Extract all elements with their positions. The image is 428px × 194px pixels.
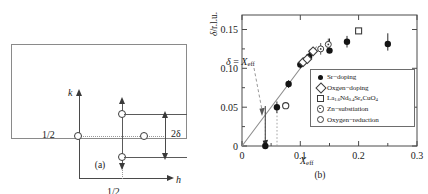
splitting-arrow-down-icon [162, 153, 168, 160]
filled-circle-marker-icon [314, 75, 327, 80]
legend-label-lnsco: La1.6Nd0.4SrxCuO4 [327, 94, 378, 102]
peak-circle-right [140, 132, 148, 140]
guide-line-horizontal [80, 136, 166, 137]
xtick-0: 0 [240, 150, 245, 161]
splitting-measure-line [165, 116, 166, 154]
panel-a-frame: k h 1/2 1/2 2δ [11, 44, 187, 139]
xtick-03: 0.3 [411, 150, 424, 161]
dotted-circle-marker-icon [314, 105, 327, 113]
panel-b-caption: (b) [230, 170, 410, 180]
panel-b: δ/r.l.u. [212, 0, 428, 194]
k-tick-label-half: 1/2 [42, 129, 55, 140]
h-axis-arrow-icon [167, 175, 174, 181]
panel-a: k h 1/2 1/2 2δ (a) [0, 0, 212, 194]
panel-a-caption: (a) [0, 160, 200, 170]
k-axis-arrow-icon [76, 89, 82, 96]
series-land-sr-cuo4 [356, 28, 362, 34]
ytick-015: 0.15 [221, 24, 239, 35]
center-arrow-up-icon [119, 97, 125, 104]
legend-item-oxygen-reduction: Oxygen−reduction [314, 114, 411, 125]
h-axis-label: h [176, 174, 181, 185]
legend-item-sr-doping: Sr−doping [314, 72, 411, 83]
open-diamond-marker-icon [314, 84, 327, 92]
h-tick-label-half: 1/2 [107, 186, 120, 194]
legend-item-zn-substitution: Zn−substiation [314, 104, 411, 115]
peak-circle-left [74, 132, 82, 140]
legend-label-oxygen-doping: Oxgen−doping [327, 84, 368, 92]
tie-line-top [124, 114, 187, 115]
ytick-0: 0 [233, 141, 238, 152]
figure-root: k h 1/2 1/2 2δ (a) δ/r.l.u. [0, 0, 428, 194]
splitting-arrow-up-icon [162, 111, 168, 118]
legend-label-sr-doping: Sr−doping [327, 73, 356, 81]
ytick-005: 0.05 [221, 102, 239, 113]
legend-label-oxygen-reduction: Oxygen−reduction [327, 116, 379, 124]
open-square-marker-icon [314, 95, 327, 102]
legend-item-lnsco: La1.6Nd0.4SrxCuO4 [314, 93, 411, 104]
guide-line-annotation: δ = Xeff [226, 56, 255, 67]
series-oxygen-reduction [283, 103, 289, 109]
chart-legend: Sr−doping Oxgen−doping La1.6Nd0.4SrxCuO4… [310, 69, 415, 127]
x-axis-label: Xeff [300, 155, 314, 166]
splitting-label: 2δ [171, 128, 181, 139]
open-circle-marker-icon [314, 116, 327, 123]
h-axis-line [79, 178, 169, 179]
tie-line-bottom [124, 157, 187, 158]
k-axis-label: k [68, 87, 72, 98]
xtick-02: 0.2 [352, 150, 365, 161]
legend-item-oxygen-doping: Oxgen−doping [314, 83, 411, 94]
legend-label-zn-substitution: Zn−substiation [327, 105, 368, 113]
